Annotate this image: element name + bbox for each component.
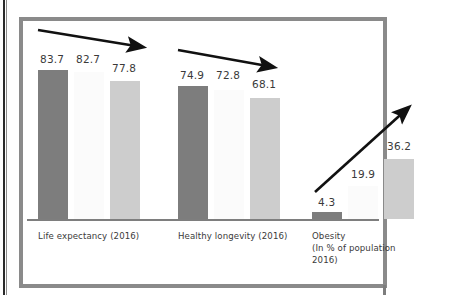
frame-corner-stub xyxy=(383,285,386,295)
bar-value-label-g2b2: 36.2 xyxy=(387,140,411,152)
page-edge-rule xyxy=(3,0,5,295)
page-edge-rule-secondary xyxy=(6,0,7,295)
bar-group2-series3 xyxy=(384,159,414,219)
figure-frame xyxy=(19,17,387,288)
figure-frame-inner-border xyxy=(23,21,383,284)
